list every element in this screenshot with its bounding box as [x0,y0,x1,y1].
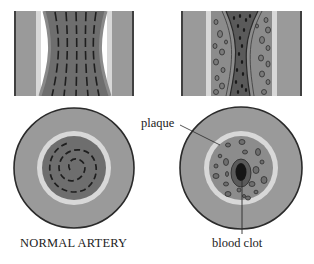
artery-diagram [0,0,314,264]
normal-artery-longitudinal [14,11,134,96]
plaque-label: plaque [141,116,174,131]
diseased-artery-cross-section [180,107,302,234]
blood-clot-label: blood clot [212,236,262,251]
diseased-artery-longitudinal [181,11,302,96]
blood-clot-shape [236,163,247,181]
normal-artery-caption: NORMAL ARTERY [20,236,127,251]
normal-artery-cross-section [14,108,134,228]
